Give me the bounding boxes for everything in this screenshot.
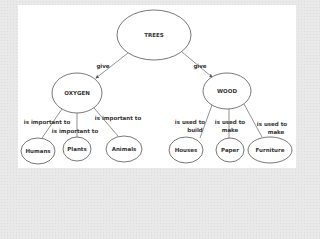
node-label-humans: Humans <box>25 148 51 154</box>
node-label-plants: Plants <box>67 146 87 152</box>
edge-label-wood-paper-1: is used to <box>215 119 245 125</box>
edge-label-oxygen-animals: is important to <box>95 115 142 122</box>
node-label-furniture: Furniture <box>256 147 285 153</box>
node-trees: TREES <box>117 10 191 60</box>
node-furniture: Furniture <box>248 137 292 163</box>
edge-label-wood-houses-2: build <box>187 127 203 133</box>
edge-label-trees-oxygen: give <box>96 63 109 70</box>
edge-label-oxygen-plants: is important to <box>52 128 99 135</box>
node-paper: Paper <box>216 138 244 162</box>
node-wood: WOOD <box>203 73 251 109</box>
edge-label-trees-wood: give <box>193 63 206 70</box>
node-oxygen: OXYGEN <box>52 73 102 113</box>
node-humans: Humans <box>21 138 55 164</box>
concept-map: give give is important to is important t… <box>0 0 308 175</box>
node-plants: Plants <box>63 137 91 161</box>
node-label-wood: WOOD <box>217 88 237 94</box>
node-animals: Animals <box>106 136 142 162</box>
edge-label-wood-furniture-1: is used to <box>257 121 287 127</box>
node-label-oxygen: OXYGEN <box>64 90 90 96</box>
edge-label-wood-paper-2: make <box>222 127 239 133</box>
node-label-trees: TREES <box>144 32 164 38</box>
edge-label-wood-houses-1: is used to <box>175 119 205 125</box>
edge-label-wood-furniture-2: make <box>268 129 285 135</box>
node-label-animals: Animals <box>112 146 137 152</box>
node-label-houses: Houses <box>175 147 198 153</box>
edge-label-oxygen-humans: is important to <box>24 119 71 126</box>
node-houses: Houses <box>169 137 203 163</box>
node-label-paper: Paper <box>221 147 239 154</box>
